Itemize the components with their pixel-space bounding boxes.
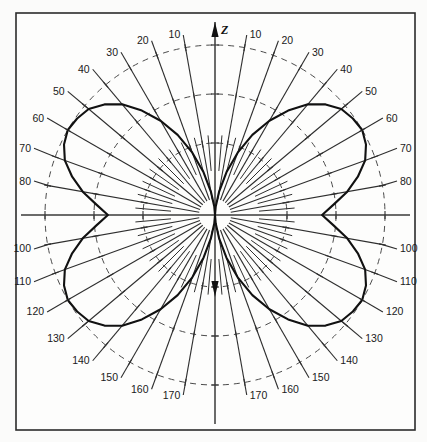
angle-tick-label: 40: [78, 63, 90, 75]
angle-tick-label: 140: [340, 354, 358, 366]
z-axis-label: Z: [220, 23, 229, 37]
angle-tick-label: 40: [340, 63, 352, 75]
angle-tick-label: 100: [13, 242, 31, 254]
angle-tick-label: 70: [400, 142, 412, 154]
angle-tick-label: 30: [106, 46, 118, 58]
angle-tick-label: 10: [250, 28, 262, 40]
angle-tick-label: 140: [72, 354, 90, 366]
angle-tick-label: 50: [365, 85, 377, 97]
angle-tick-label: 130: [47, 332, 65, 344]
angle-tick-label: 70: [19, 142, 31, 154]
angle-tick-label: 110: [400, 275, 417, 287]
angle-tick-label: 120: [27, 305, 45, 317]
angle-tick-label: 160: [281, 383, 299, 395]
angle-tick-label: 10: [169, 28, 181, 40]
polar-plot-canvas: 1020304050607080100110120130140150160170…: [0, 0, 427, 442]
angle-tick-label: 170: [250, 389, 268, 401]
angle-tick-label: 160: [131, 383, 149, 395]
angle-tick-label: 80: [400, 175, 412, 187]
angle-tick-label: 60: [386, 112, 398, 124]
angle-tick-label: 170: [163, 389, 181, 401]
angle-tick-label: 60: [32, 112, 44, 124]
angle-tick-label: 30: [312, 46, 324, 58]
angle-tick-label: 150: [100, 371, 118, 383]
angle-tick-label: 100: [400, 242, 418, 254]
angle-tick-label: 20: [137, 34, 149, 46]
angle-tick-label: 150: [312, 371, 330, 383]
angle-tick-label: 80: [19, 175, 31, 187]
angle-tick-label: 130: [365, 332, 383, 344]
angle-tick-label: 20: [281, 34, 293, 46]
angle-tick-label: 120: [386, 305, 404, 317]
angle-tick-label: 50: [53, 85, 65, 97]
angle-tick-label: 110: [14, 275, 31, 287]
polar-radiation-pattern-figure: 1020304050607080100110120130140150160170…: [0, 0, 427, 442]
